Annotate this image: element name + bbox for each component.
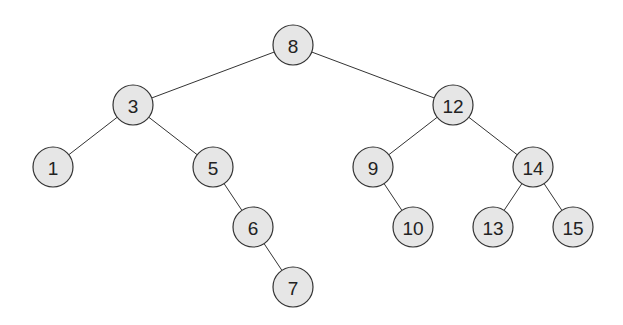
edge-8-12 bbox=[312, 52, 435, 98]
nodes: 83121591461013157 bbox=[33, 25, 593, 307]
tree-node-7: 7 bbox=[273, 267, 313, 307]
tree-node-13: 13 bbox=[473, 207, 513, 247]
tree-node-8: 8 bbox=[273, 25, 313, 65]
node-label: 15 bbox=[562, 218, 583, 239]
tree-node-9: 9 bbox=[353, 147, 393, 187]
node-label: 7 bbox=[288, 278, 299, 299]
edge-6-7 bbox=[264, 244, 282, 271]
edge-9-10 bbox=[384, 184, 402, 211]
node-label: 12 bbox=[442, 96, 463, 117]
node-label: 14 bbox=[522, 158, 544, 179]
node-label: 1 bbox=[48, 158, 59, 179]
edge-12-14 bbox=[469, 117, 517, 154]
edge-12-9 bbox=[389, 117, 437, 154]
node-label: 5 bbox=[208, 158, 219, 179]
tree-node-3: 3 bbox=[113, 85, 153, 125]
binary-search-tree-diagram: 83121591461013157 bbox=[0, 0, 623, 325]
edge-3-1 bbox=[69, 117, 117, 154]
node-label: 8 bbox=[288, 36, 299, 57]
tree-node-15: 15 bbox=[553, 207, 593, 247]
node-label: 13 bbox=[482, 218, 503, 239]
edge-5-6 bbox=[224, 184, 242, 211]
tree-node-10: 10 bbox=[393, 207, 433, 247]
edge-14-13 bbox=[504, 184, 522, 211]
tree-node-1: 1 bbox=[33, 147, 73, 187]
node-label: 9 bbox=[368, 158, 379, 179]
tree-node-14: 14 bbox=[513, 147, 553, 187]
node-label: 6 bbox=[248, 218, 259, 239]
node-label: 10 bbox=[402, 218, 423, 239]
edge-8-3 bbox=[152, 52, 275, 98]
tree-node-5: 5 bbox=[193, 147, 233, 187]
tree-node-6: 6 bbox=[233, 207, 273, 247]
edge-14-15 bbox=[544, 184, 562, 211]
tree-node-12: 12 bbox=[433, 85, 473, 125]
edge-3-5 bbox=[149, 117, 197, 154]
node-label: 3 bbox=[128, 96, 139, 117]
